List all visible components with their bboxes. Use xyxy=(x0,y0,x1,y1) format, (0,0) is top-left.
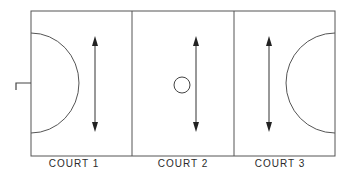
double-arrow-icon-court-1 xyxy=(92,36,98,132)
double-arrow-icon-court-3 xyxy=(266,36,272,132)
court-3-label: COURT 3 xyxy=(255,158,306,169)
goal-post-icon xyxy=(16,83,31,90)
court-boundary xyxy=(31,11,335,156)
goal-circle-right xyxy=(286,33,335,133)
netball-court-diagram xyxy=(0,0,351,176)
double-arrow-icon-court-2 xyxy=(193,36,199,132)
goal-circle-left xyxy=(31,33,79,133)
centre-circle xyxy=(174,77,190,93)
court-1-label: COURT 1 xyxy=(49,158,100,169)
court-2-label: COURT 2 xyxy=(158,158,209,169)
